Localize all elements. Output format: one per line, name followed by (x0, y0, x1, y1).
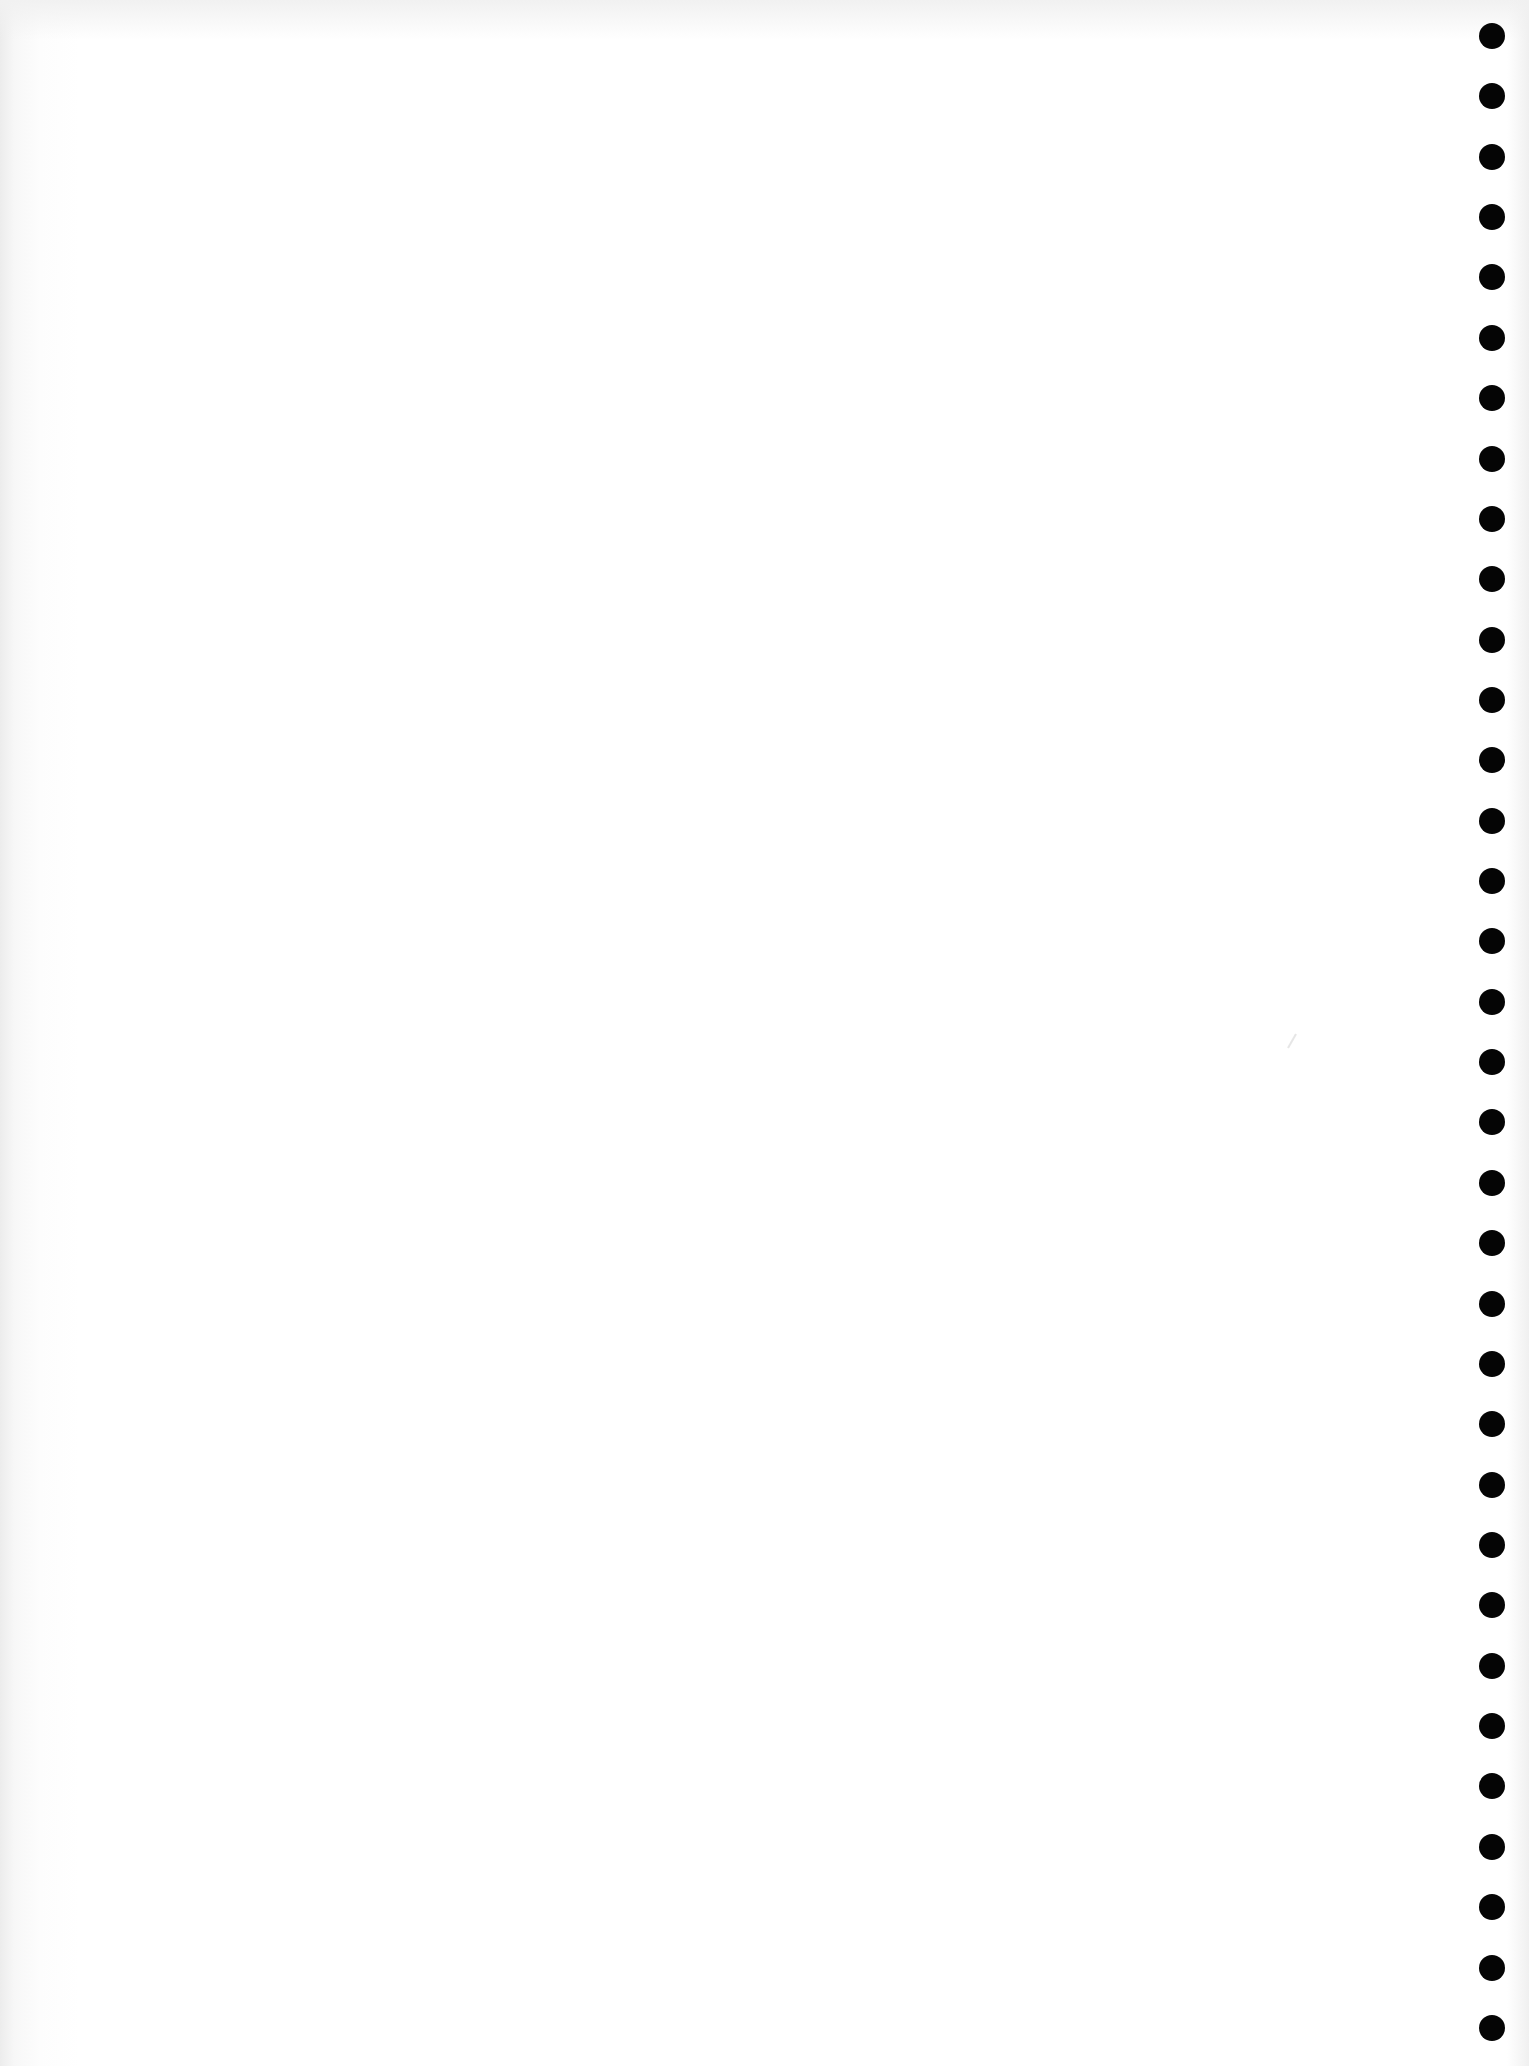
binding-hole-icon (1479, 144, 1505, 170)
binding-hole-icon (1479, 204, 1505, 230)
binding-hole-icon (1479, 1049, 1505, 1075)
binding-hole-icon (1479, 928, 1505, 954)
binding-hole-icon (1479, 989, 1505, 1015)
binding-hole-icon (1479, 23, 1505, 49)
binding-hole-icon (1479, 1955, 1505, 1981)
spiral-binding-holes (1479, 0, 1506, 2066)
binding-hole-icon (1479, 1472, 1505, 1498)
binding-hole-icon (1479, 1170, 1505, 1196)
binding-hole-icon (1479, 747, 1505, 773)
binding-hole-icon (1479, 1894, 1505, 1920)
binding-hole-icon (1479, 1351, 1505, 1377)
binding-hole-icon (1479, 1834, 1505, 1860)
binding-hole-icon (1479, 2015, 1505, 2041)
binding-hole-icon (1479, 1291, 1505, 1317)
binding-hole-icon (1479, 868, 1505, 894)
binding-hole-icon (1479, 1411, 1505, 1437)
binding-hole-icon (1479, 1773, 1505, 1799)
binding-hole-icon (1479, 83, 1505, 109)
binding-hole-icon (1479, 506, 1505, 532)
binding-hole-icon (1479, 1230, 1505, 1256)
binding-hole-icon (1479, 1592, 1505, 1618)
binding-hole-icon (1479, 1713, 1505, 1739)
binding-hole-icon (1479, 325, 1505, 351)
binding-hole-icon (1479, 627, 1505, 653)
binding-hole-icon (1479, 385, 1505, 411)
binding-hole-icon (1479, 1653, 1505, 1679)
binding-hole-icon (1479, 1109, 1505, 1135)
binding-hole-icon (1479, 566, 1505, 592)
binding-hole-icon (1479, 264, 1505, 290)
blank-writing-area (0, 0, 1440, 2066)
binding-hole-icon (1479, 1532, 1505, 1558)
binding-hole-icon (1479, 446, 1505, 472)
notebook-page (0, 0, 1529, 2066)
binding-hole-icon (1479, 687, 1505, 713)
binding-hole-icon (1479, 808, 1505, 834)
